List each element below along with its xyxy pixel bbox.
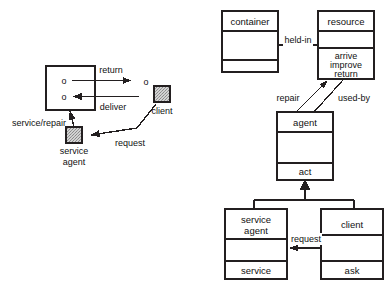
container-class-name: container: [230, 16, 269, 27]
diagram-svg: o o return o deliver client service agen…: [0, 0, 387, 287]
left-request-label: request: [115, 138, 146, 148]
left-port-bottom-label: o: [61, 92, 66, 102]
left-service-agent-node: [66, 127, 82, 143]
service-agent-op-service: service: [241, 265, 271, 276]
service-agent-class-name-line1: service: [241, 214, 271, 225]
agent-class-box: agent act: [277, 112, 333, 180]
left-diagram-group: o o return o deliver client service agen…: [12, 65, 173, 167]
client-class-name: client: [341, 219, 364, 230]
resource-op-return: return: [334, 69, 358, 79]
left-main-box: [46, 66, 95, 110]
left-service-agent-label-line1: service: [60, 146, 89, 156]
service-agent-class-box: service agent service: [225, 209, 287, 279]
repair-association-label: repair: [276, 93, 299, 103]
used-by-association-label: used-by: [338, 93, 371, 103]
left-client-label: client: [151, 106, 173, 116]
resource-class-name: resource: [328, 16, 365, 27]
agent-class-name: agent: [293, 117, 317, 128]
request-association-label: request: [291, 234, 322, 244]
left-external-port-label: o: [143, 77, 148, 87]
left-service-repair-arrow: [70, 111, 74, 127]
repair-association-arrow: [296, 81, 327, 112]
left-return-label: return: [99, 65, 123, 75]
held-in-association-label: held-in: [284, 35, 311, 45]
right-diagram-group: container resource arrive improve return…: [222, 11, 383, 279]
diagram-canvas: o o return o deliver client service agen…: [0, 0, 387, 287]
left-service-agent-label-line2: agent: [63, 157, 86, 167]
left-service-repair-label: service/repair: [12, 118, 66, 128]
left-deliver-label: deliver: [100, 102, 127, 112]
client-class-box: client ask: [321, 209, 383, 279]
client-op-ask: ask: [345, 265, 360, 276]
service-agent-class-name-line2: agent: [244, 225, 268, 236]
container-class-box: container: [222, 11, 278, 72]
left-client-node: [154, 86, 170, 102]
generalization-group: [254, 180, 354, 209]
left-port-top-label: o: [61, 76, 66, 86]
generalization-triangle-icon: [301, 180, 310, 189]
agent-op-act: act: [299, 166, 312, 177]
resource-class-box: resource arrive improve return: [318, 11, 374, 79]
